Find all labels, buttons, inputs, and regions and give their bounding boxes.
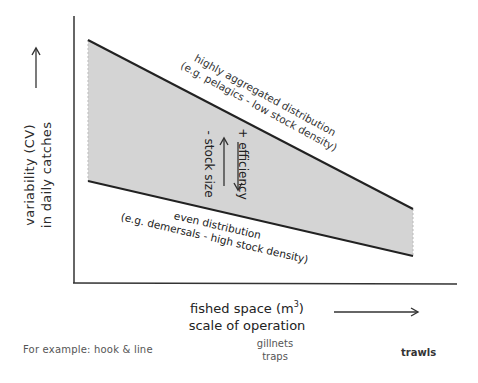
x-axis-label: fished space (m3) scale of operation (189, 296, 306, 334)
example-traps: traps (257, 350, 293, 363)
x-axis-label-line1: fished space (m3) (189, 296, 306, 317)
efficiency-label: + efficiency (236, 128, 250, 199)
stock-size-label: - stock size (202, 130, 216, 197)
y-axis-label-line1: variability (CV) (21, 122, 38, 228)
x-axis-line (73, 283, 457, 284)
example-hook-and-line: For example: hook & line (23, 344, 153, 355)
example-gillnets: gillnets (257, 337, 293, 350)
example-gillnets-traps: gillnets traps (257, 337, 293, 363)
y-axis-label-line2: in daily catches (38, 122, 55, 228)
x-axis-label-line2: scale of operation (189, 317, 306, 334)
y-axis-label: variability (CV) in daily catches (21, 122, 55, 228)
example-trawls: trawls (401, 347, 436, 358)
